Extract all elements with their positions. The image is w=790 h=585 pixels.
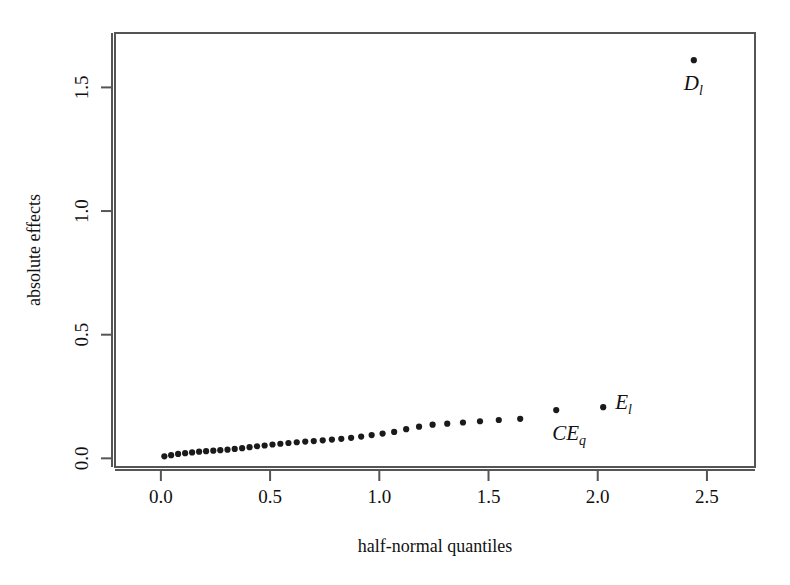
- x-tick-label: 2.5: [695, 486, 719, 507]
- data-point: [294, 439, 300, 445]
- data-point: [262, 442, 268, 448]
- data-point: [224, 447, 230, 453]
- chart-canvas: 0.00.51.01.52.02.5 0.00.51.01.5 DlElCEq …: [0, 0, 790, 585]
- data-point: [239, 445, 245, 451]
- y-tick-label: 0.5: [71, 323, 92, 347]
- data-point: [168, 452, 174, 458]
- data-point: [553, 407, 559, 413]
- data-point: [182, 450, 188, 456]
- data-point: [338, 436, 344, 442]
- data-point: [302, 438, 308, 444]
- data-point: [210, 448, 216, 454]
- data-point: [416, 424, 422, 430]
- data-point: [477, 418, 483, 424]
- data-point: [217, 447, 223, 453]
- data-point: [429, 422, 435, 428]
- data-point: [496, 417, 502, 423]
- y-tick-label: 1.0: [71, 199, 92, 223]
- x-tick-label: 0.5: [258, 486, 282, 507]
- x-tick-label: 2.0: [586, 486, 610, 507]
- y-tick-label: 0.0: [71, 446, 92, 470]
- data-point: [691, 57, 697, 63]
- data-point: [460, 419, 466, 425]
- data-point: [517, 416, 523, 422]
- data-point: [444, 421, 450, 427]
- data-point: [246, 444, 252, 450]
- x-tick-label: 1.5: [477, 486, 501, 507]
- data-point: [175, 451, 181, 457]
- data-point: [379, 431, 385, 437]
- data-point: [391, 429, 397, 435]
- figure-background: [0, 0, 790, 585]
- data-point: [311, 438, 317, 444]
- data-point: [254, 443, 260, 449]
- data-point: [277, 441, 283, 447]
- data-point: [320, 437, 326, 443]
- half-normal-plot-figure: 0.00.51.01.52.02.5 0.00.51.01.5 DlElCEq …: [0, 0, 790, 585]
- x-tick-label: 1.0: [367, 486, 391, 507]
- data-point: [285, 440, 291, 446]
- data-point: [600, 404, 606, 410]
- x-axis-title: half-normal quantiles: [358, 536, 512, 556]
- data-point: [196, 449, 202, 455]
- x-tick-label: 0.0: [149, 486, 173, 507]
- y-tick-label: 1.5: [71, 76, 92, 100]
- data-point: [358, 433, 364, 439]
- data-point: [232, 446, 238, 452]
- data-point: [403, 426, 409, 432]
- data-point: [329, 436, 335, 442]
- data-point: [369, 432, 375, 438]
- data-point: [269, 441, 275, 447]
- data-point: [348, 435, 354, 441]
- data-point: [161, 453, 167, 459]
- y-axis-title: absolute effects: [24, 194, 44, 306]
- data-point: [203, 448, 209, 454]
- data-point: [189, 449, 195, 455]
